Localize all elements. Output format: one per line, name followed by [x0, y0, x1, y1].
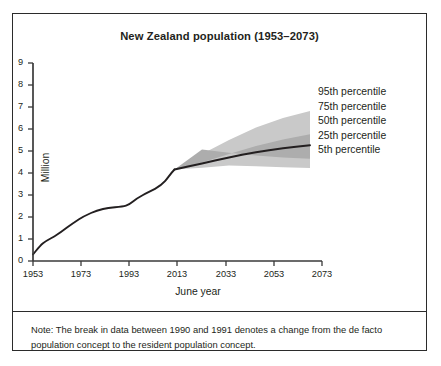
legend-item-50th: 50th percentile	[318, 114, 428, 129]
x-tick-label-2053: 2053	[256, 269, 292, 279]
y-axis-title: Million	[40, 123, 51, 213]
page-title: New Zealand population (1953–2073)	[13, 30, 426, 42]
y-tick-label-4: 4	[1, 167, 23, 177]
x-tick-label-2033: 2033	[208, 269, 244, 279]
legend: 95th percentile 75th percentile 50th per…	[318, 85, 428, 158]
figure-frame: New Zealand population (1953–2073)	[12, 13, 427, 351]
x-tick-label-1993: 1993	[111, 269, 147, 279]
x-tick-label-1973: 1973	[63, 269, 99, 279]
y-tick-label-6: 6	[1, 123, 23, 133]
x-tick-label-2013: 2013	[159, 269, 195, 279]
y-tick-label-7: 7	[1, 101, 23, 111]
x-tick-label-1953: 1953	[15, 269, 51, 279]
legend-item-95th: 95th percentile	[318, 85, 428, 100]
y-tick-label-5: 5	[1, 145, 23, 155]
y-tick-label-2: 2	[1, 211, 23, 221]
legend-item-5th: 5th percentile	[318, 143, 428, 158]
note-divider	[13, 311, 426, 312]
x-axis-title: June year	[73, 286, 323, 297]
y-tick-label-3: 3	[1, 189, 23, 199]
y-tick-label-0: 0	[1, 255, 23, 265]
y-tick-label-8: 8	[1, 79, 23, 89]
legend-item-25th: 25th percentile	[318, 129, 428, 144]
legend-item-75th: 75th percentile	[318, 100, 428, 115]
y-tick-label-9: 9	[1, 57, 23, 67]
historical-population-line	[33, 170, 175, 255]
plot-area: 9 8 7 6 5 4 3 2 1 0 1953 1973 1993 2013 …	[13, 54, 426, 309]
figure-note: Note: The break in data between 1990 and…	[31, 322, 403, 352]
x-tick-label-2073: 2073	[304, 269, 340, 279]
y-tick-label-1: 1	[1, 233, 23, 243]
